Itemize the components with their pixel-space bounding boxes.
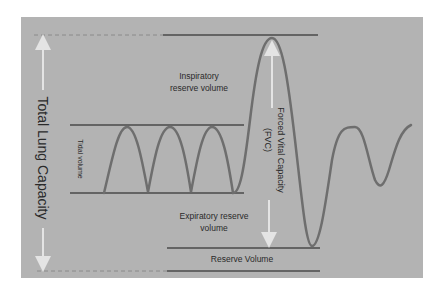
reserve-volume-label: Reserve Volume — [211, 254, 274, 264]
lung-volumes-diagram: Total Lung Capacity Inspiratory reserve … — [0, 0, 440, 308]
total-lung-capacity-label: Total Lung Capacity — [35, 97, 51, 220]
fvc-label-line2: (FVC) — [263, 128, 273, 152]
expiratory-reserve-label-line1: Expiratory reserve — [180, 211, 249, 221]
inspiratory-reserve-label-line2: reserve volume — [170, 83, 228, 93]
tidal-volume-label: Tidal volume — [77, 139, 84, 179]
fvc-label-line1: Forced Vital Capacity — [276, 107, 286, 193]
inspiratory-reserve-label-line1: Inspiratory — [179, 71, 219, 81]
expiratory-reserve-label-line2: volume — [200, 223, 228, 233]
